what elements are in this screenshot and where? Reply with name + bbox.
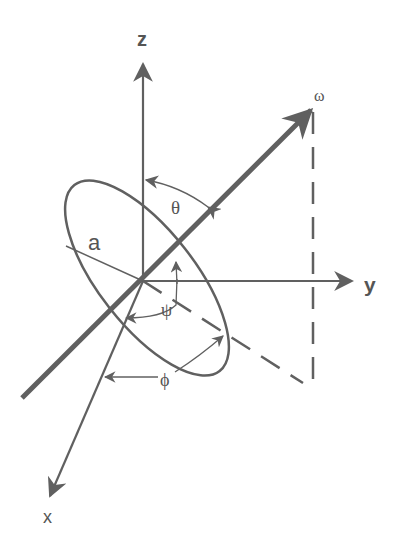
z-axis-label: z <box>137 28 147 50</box>
x-axis <box>50 281 143 496</box>
phi-arc-right <box>175 336 223 372</box>
euler-angle-diagram: z y x ω a θ ψ ϕ <box>0 0 401 550</box>
omega-vector <box>22 110 311 398</box>
disk-ellipse <box>37 155 258 400</box>
phi-label: ϕ <box>160 370 169 390</box>
radius-a-label: a <box>88 230 101 255</box>
omega-label: ω <box>314 87 325 104</box>
radius-a-line <box>66 246 143 281</box>
x-axis-label: x <box>43 507 52 527</box>
psi-label: ψ <box>161 300 173 320</box>
theta-label: θ <box>171 197 180 218</box>
y-axis-label: y <box>364 273 376 296</box>
